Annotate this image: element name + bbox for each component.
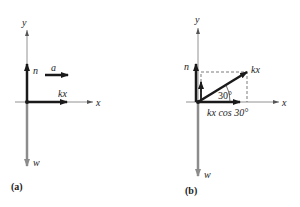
origin-dot	[25, 100, 29, 104]
x-axis-label: x	[281, 97, 287, 108]
caption-a: (a)	[11, 181, 23, 193]
angle-label: 30°	[218, 90, 232, 101]
component-label: kx cos 30°	[207, 107, 248, 118]
panel-a: y x n a kx w (a)	[11, 17, 101, 193]
origin-dot	[196, 100, 200, 104]
w-label: w	[204, 169, 211, 180]
x-axis-label: x	[95, 97, 101, 108]
kx-label: kx	[58, 88, 67, 99]
panel-b: y x n kx w 30° kx cos 30° (b)	[184, 14, 287, 197]
free-body-diagrams: y x n a kx w (a) y x n kx w 30° kx cos 3…	[0, 0, 300, 207]
a-label: a	[51, 62, 56, 73]
kx-label: kx	[251, 64, 260, 75]
w-label: w	[33, 157, 40, 168]
n-label: n	[184, 61, 189, 72]
caption-b: (b)	[185, 185, 197, 197]
n-label: n	[33, 65, 38, 76]
y-axis-label: y	[21, 17, 27, 28]
y-axis-label: y	[194, 14, 200, 25]
